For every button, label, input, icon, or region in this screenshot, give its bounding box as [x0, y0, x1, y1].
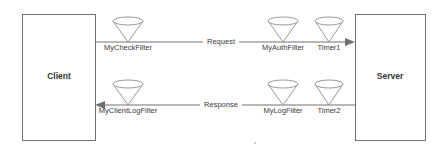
filter-mylogfilter[interactable]: MyLogFilter — [263, 80, 303, 115]
filter-label-myclientlogfilter: MyClientLogFilter — [99, 106, 158, 115]
filter-label-timer2: Timer2 — [317, 106, 340, 115]
filter-label-timer1: Timer1 — [317, 43, 340, 52]
request-arrowhead-icon — [345, 38, 355, 46]
flow-request: Request MyCheckFilter MyAuthFilter Timer… — [95, 17, 355, 52]
funnel-rim-icon — [315, 17, 343, 25]
response-flow-label: Response — [204, 100, 238, 109]
diagram-canvas: Client Server Request MyCheckFilter — [0, 0, 443, 152]
filter-timer1[interactable]: Timer1 — [315, 17, 343, 52]
filter-myclientlogfilter[interactable]: MyClientLogFilter — [99, 80, 158, 115]
node-server[interactable]: Server — [356, 15, 426, 141]
funnel-rim-icon — [315, 80, 343, 88]
funnel-rim-icon — [268, 17, 298, 25]
flow-response: Response MyClientLogFilter MyLogFilter T… — [95, 80, 355, 115]
funnel-rim-icon — [113, 80, 143, 88]
node-client[interactable]: Client — [23, 15, 96, 141]
funnel-rim-icon — [113, 17, 143, 25]
speck-artifact — [254, 142, 256, 144]
server-label: Server — [377, 71, 404, 81]
client-label: Client — [47, 71, 71, 81]
request-flow-label: Request — [207, 37, 236, 46]
filter-chain-diagram: Client Server Request MyCheckFilter — [0, 0, 443, 152]
filter-myauthfilter[interactable]: MyAuthFilter — [262, 17, 305, 52]
filter-label-mylogfilter: MyLogFilter — [263, 106, 303, 115]
filter-mycheckfilter[interactable]: MyCheckFilter — [104, 17, 152, 52]
filter-label-mycheckfilter: MyCheckFilter — [104, 43, 152, 52]
filter-label-myauthfilter: MyAuthFilter — [262, 43, 305, 52]
funnel-rim-icon — [268, 80, 298, 88]
filter-timer2[interactable]: Timer2 — [315, 80, 343, 115]
